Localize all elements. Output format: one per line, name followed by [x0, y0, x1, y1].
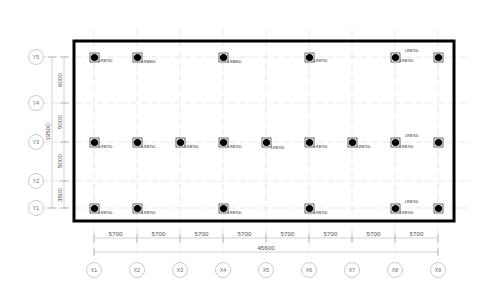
grid-bubbles-x: X1 X2 X3 X4 X5 X6 — [87, 263, 446, 278]
grid-bubble-x3[interactable]: X3 — [173, 263, 188, 278]
bearing-marker[interactable]: LRB700 — [219, 204, 241, 215]
bearing-label: LRB750 — [271, 146, 284, 150]
bearing-label: LRB750 — [99, 59, 112, 63]
dimension-text: 5000 — [56, 115, 63, 129]
bearing-marker[interactable]: LRB800 — [219, 53, 241, 64]
grid-bubbles-y: Y5 Y4 Y3 Y2 Y1 — [29, 50, 44, 216]
grid-bubble-y2[interactable]: Y2 — [29, 174, 44, 189]
dimension-overall-y: 19500 — [44, 57, 56, 208]
bearing-marker[interactable]: LRB800 — [133, 53, 155, 64]
dimension-text: 5700 — [367, 230, 381, 237]
grid-bubble-y3[interactable]: Y3 — [29, 135, 44, 150]
bearing-row-y1: LRB700 LRB700 LRB700 LRB700 LRB700 — [90, 200, 443, 215]
bearing-label: LRB750 — [142, 145, 155, 149]
dimension-text: 5700 — [152, 230, 166, 237]
bearing-label: LRB700 — [314, 145, 327, 149]
grid-bubble-x5[interactable]: X5 — [259, 263, 274, 278]
dimension-text: 5700 — [109, 230, 123, 237]
bearing-marker[interactable]: LRB750 — [90, 138, 112, 149]
grid-bubble-x9[interactable]: X9 — [431, 263, 446, 278]
dimension-text: 5700 — [410, 230, 424, 237]
grid-lines-horizontal — [42, 57, 470, 208]
grid-bubble-label: Y5 — [33, 54, 39, 60]
grid-bubble-label: X2 — [134, 267, 140, 273]
grid-bubble-label: X1 — [91, 267, 97, 273]
bearing-marker[interactable]: LRB700 — [176, 138, 198, 149]
bearing-label: LRB750 — [314, 59, 327, 63]
grid-bubble-x6[interactable]: X6 — [302, 263, 317, 278]
bearing-marker[interactable]: LRB700 — [305, 204, 327, 215]
bearing-label: LRB700 — [405, 200, 418, 204]
grid-bubble-x4[interactable]: X4 — [216, 263, 231, 278]
dimension-overall-text: 45600 — [257, 244, 275, 251]
grid-bubble-label: X6 — [306, 267, 312, 273]
grid-bubble-label: Y1 — [33, 205, 39, 211]
dimension-text: 5700 — [238, 230, 252, 237]
grid-bubble-y5[interactable]: Y5 — [29, 50, 44, 65]
bearing-label: LRB700 — [228, 145, 241, 149]
bearing-label: LRB700 — [405, 134, 418, 138]
bearing-marker[interactable]: LRB750 — [305, 53, 327, 63]
bearing-label: LRB700 — [405, 49, 418, 53]
bearing-label: LRB700 — [400, 145, 413, 149]
dimension-text: 6000 — [56, 73, 63, 87]
bearing-marker[interactable]: LRB750 — [133, 138, 155, 149]
grid-bubble-label: X7 — [349, 267, 355, 273]
bearing-label: LRB700 — [99, 211, 112, 215]
bearing-marker[interactable]: LRB700 — [305, 138, 327, 149]
grid-bubble-x1[interactable]: X1 — [87, 263, 102, 278]
grid-bubble-x7[interactable]: X7 — [345, 263, 360, 278]
grid-bubble-y1[interactable]: Y1 — [29, 201, 44, 216]
bearing-label: LRB800 — [228, 60, 241, 64]
drawing-canvas: LRB750 LRB800 LRB800 LRB750 LRB700 — [0, 0, 493, 288]
dimension-overall-x: 45600 — [94, 244, 438, 256]
bearing-marker[interactable]: LRB700 — [391, 53, 413, 63]
bearing-label: LRB700 — [400, 59, 413, 63]
dimension-string-y: 6000 5000 5000 3500 — [56, 57, 68, 208]
bearing-label: LRB700 — [142, 211, 155, 215]
bearing-marker[interactable]: LRB700 — [391, 204, 413, 215]
bearing-label: LRB700 — [314, 211, 327, 215]
dimension-text: 5700 — [281, 230, 295, 237]
grid-bubble-label: Y4 — [33, 100, 39, 106]
grid-bubble-label: Y3 — [33, 139, 39, 145]
bearing-label: LRB700 — [400, 211, 413, 215]
grid-bubble-x2[interactable]: X2 — [130, 263, 145, 278]
bearing-label: LRB700 — [228, 211, 241, 215]
grid-bubble-label: X8 — [392, 267, 398, 273]
bearing-label: LRB750 — [99, 145, 112, 149]
dimension-text: 3500 — [56, 188, 63, 202]
bearing-marker[interactable]: LRB700 — [391, 138, 413, 149]
bearing-marker[interactable]: LRB700 — [90, 204, 112, 215]
grid-bubble-label: X9 — [435, 267, 441, 273]
building-outline — [74, 41, 454, 221]
dimension-text: 5700 — [195, 230, 209, 237]
bearing-label: LRB800 — [142, 60, 155, 64]
grid-bubble-x8[interactable]: X8 — [388, 263, 403, 278]
bearing-marker[interactable]: LRB750 — [262, 138, 284, 150]
dimension-overall-text: 19500 — [44, 123, 51, 141]
grid-bubble-label: X5 — [263, 267, 269, 273]
bearing-marker[interactable]: LRB700 — [133, 204, 155, 215]
dimension-text: 5700 — [324, 230, 338, 237]
bearing-label: LRB700 — [185, 145, 198, 149]
grid-bubble-y4[interactable]: Y4 — [29, 96, 44, 111]
structural-plan-svg: LRB750 LRB800 LRB800 LRB750 LRB700 — [0, 0, 493, 288]
grid-bubble-label: X4 — [220, 267, 226, 273]
grid-bubble-label: X3 — [177, 267, 183, 273]
grid-bubble-label: Y2 — [33, 178, 39, 184]
bearing-marker[interactable]: LRB700 — [348, 138, 370, 149]
bearing-marker[interactable]: LRB700 — [219, 138, 241, 149]
dimension-text: 5000 — [56, 154, 63, 168]
bearing-marker[interactable]: LRB750 — [90, 53, 112, 63]
bearing-label: LRB700 — [357, 145, 370, 149]
bearing-row-y5: LRB750 LRB800 LRB800 LRB750 LRB700 — [90, 49, 443, 64]
